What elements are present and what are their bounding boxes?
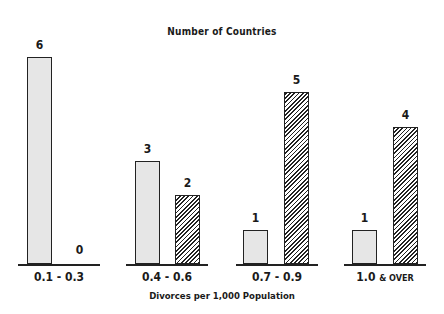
category-label-1: 0.4 - 0.6 (126, 270, 208, 284)
value-label-b2: 5 (284, 73, 309, 87)
axis-segment-1 (126, 264, 208, 266)
value-label-b1: 2 (175, 176, 200, 190)
value-label-a2: 1 (243, 211, 268, 225)
bar-series-a-1 (135, 161, 160, 264)
value-label-a0: 6 (27, 38, 52, 52)
value-label-a1: 3 (135, 142, 160, 156)
bar-series-b-3 (393, 127, 418, 264)
category-label-0: 0.1 - 0.3 (18, 270, 100, 284)
bar-series-b-1 (175, 195, 200, 264)
category-label-2: 0.7 - 0.9 (236, 270, 318, 284)
axis-segment-2 (236, 264, 318, 266)
bar-series-a-2 (243, 230, 268, 264)
category-label-3: 1.0 & OVER (344, 270, 426, 284)
axis-segment-3 (344, 264, 426, 266)
bar-series-a-0 (27, 57, 52, 264)
value-label-b0: 0 (67, 243, 92, 257)
category-label-3-main: 1.0 (356, 270, 375, 284)
chart-title: Number of Countries (0, 26, 444, 37)
bar-series-b-2 (284, 92, 309, 264)
bar-series-a-3 (352, 230, 377, 264)
value-label-b3: 4 (393, 108, 418, 122)
category-label-3-suffix: & OVER (379, 273, 414, 283)
value-label-a3: 1 (352, 211, 377, 225)
axis-segment-0 (18, 264, 100, 266)
x-axis-label: Divorces per 1,000 Population (0, 290, 444, 301)
